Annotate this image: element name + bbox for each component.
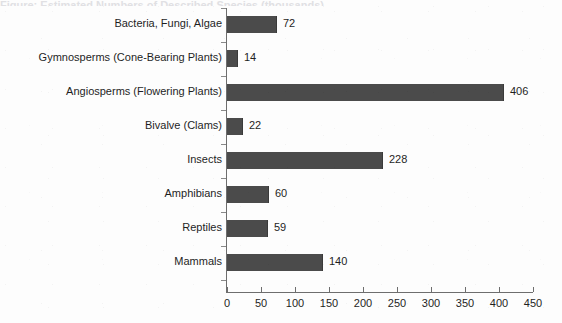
x-axis-line (226, 292, 533, 293)
y-axis-tick (221, 8, 226, 9)
bar-value-label: 59 (274, 221, 286, 234)
category-label: Reptiles (0, 221, 222, 234)
x-axis-tick (227, 287, 228, 292)
x-axis-tick (397, 287, 398, 292)
category-label: Bivalve (Clams) (0, 119, 222, 132)
x-axis-tick (261, 287, 262, 292)
bar (227, 16, 277, 33)
bar-value-label: 72 (283, 17, 295, 30)
bar (227, 84, 504, 101)
bar-row: Insects228 (0, 144, 562, 178)
y-axis-tick (221, 178, 226, 179)
bar-row: Gymnosperms (Cone-Bearing Plants)14 (0, 42, 562, 76)
bar-value-label: 22 (249, 119, 261, 132)
y-axis-tick (221, 110, 226, 111)
x-axis-tick (329, 287, 330, 292)
x-axis-tick (499, 287, 500, 292)
x-axis-tick (533, 287, 534, 292)
bar-row: Amphibians60 (0, 178, 562, 212)
bar-row: Bivalve (Clams)22 (0, 110, 562, 144)
category-label: Amphibians (0, 187, 222, 200)
y-axis-tick (221, 246, 226, 247)
bar-row: Angiosperms (Flowering Plants)406 (0, 76, 562, 110)
x-axis-tick (465, 287, 466, 292)
bar-value-label: 14 (244, 51, 256, 64)
bar-value-label: 140 (329, 255, 347, 268)
bar (227, 220, 268, 237)
category-label: Gymnosperms (Cone-Bearing Plants) (0, 51, 222, 64)
bar-value-label: 228 (389, 153, 407, 166)
category-label: Mammals (0, 255, 222, 268)
category-label: Insects (0, 153, 222, 166)
y-axis-tick (221, 280, 226, 281)
bar-row: Mammals140 (0, 246, 562, 280)
bar (227, 50, 238, 67)
category-label: Bacteria, Fungi, Algae (0, 17, 222, 30)
bar-row: Reptiles59 (0, 212, 562, 246)
bar (227, 254, 323, 271)
category-label: Angiosperms (Flowering Plants) (0, 85, 222, 98)
bar-row: Bacteria, Fungi, Algae72 (0, 8, 562, 42)
x-axis-tick-label: 450 (513, 297, 553, 310)
x-axis-tick (431, 287, 432, 292)
bar (227, 186, 269, 203)
bar-value-label: 406 (510, 85, 528, 98)
bar-chart: Figure: Estimated Numbers of Described S… (0, 0, 562, 323)
bar (227, 118, 243, 135)
bar-value-label: 60 (275, 187, 287, 200)
x-axis-tick (363, 287, 364, 292)
plot-area: Bacteria, Fungi, Algae72Gymnosperms (Con… (0, 0, 562, 323)
x-axis-tick (295, 287, 296, 292)
y-axis-tick (221, 42, 226, 43)
y-axis-tick (221, 144, 226, 145)
y-axis-tick (221, 212, 226, 213)
bar (227, 152, 383, 169)
y-axis-tick (221, 76, 226, 77)
